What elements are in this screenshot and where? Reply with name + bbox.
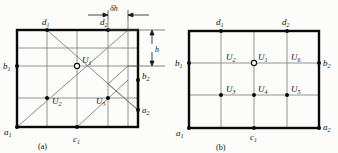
node-d1 [45, 28, 49, 32]
node-b1 [15, 64, 19, 68]
node-c1 [75, 125, 79, 129]
h-arrow-bottom-head [150, 61, 154, 66]
node-b2 [317, 61, 321, 65]
panel-b-caption: (b) [216, 143, 226, 152]
panel-a-label-d2: d2 [100, 17, 108, 28]
panel-a-grid-vertical [47, 30, 128, 127]
panel-a-label-c1: c1 [73, 134, 80, 145]
node-a2 [317, 126, 321, 130]
panel-b-label-b2: b2 [323, 58, 331, 69]
node-d2 [285, 29, 289, 33]
node-a1 [187, 126, 191, 130]
panel-b-label-b1: b1 [175, 58, 183, 69]
diagonal-a1-d2 [17, 30, 128, 127]
label-h: h [155, 45, 159, 54]
panel-a-dimension-lines [108, 20, 165, 66]
diagonal-u5-up [108, 66, 128, 84]
panel-b-label-u6: U6 [291, 52, 301, 63]
node-u5 [106, 96, 110, 100]
panel-a-label-b2: b2 [142, 71, 150, 82]
node-u3 [219, 93, 223, 97]
node-c1 [252, 126, 256, 130]
panel-b-label-u3: U3 [226, 84, 236, 95]
panel-b-grid-vertical [221, 31, 287, 128]
panel-a-caption: (a) [38, 142, 47, 151]
panel-b-label-a2: a2 [323, 122, 331, 133]
panel-b-label-u5: U5 [291, 84, 301, 95]
panel-a-nodes [15, 28, 140, 129]
dh-arrow-right-head [128, 13, 133, 17]
dimension-delta-h [88, 10, 149, 20]
panel-b-label-c1: c1 [250, 132, 257, 143]
panel-b-label-u2: U2 [226, 52, 236, 63]
figure-svg: δh h d1 d2 b1 b2 a1 a2 c1 U1 U2 U5 (a) [0, 0, 338, 153]
node-u2 [45, 96, 49, 100]
node-b1 [187, 61, 191, 65]
panel-a-frame [17, 30, 138, 127]
panel-b-label-d2: d2 [282, 17, 290, 28]
h-arrow-top-head [150, 30, 154, 35]
panel-a-label-a2: a2 [142, 105, 150, 116]
panel-b-label-u1: U1 [258, 52, 268, 63]
node-a2 [136, 108, 140, 112]
dimension-h [150, 30, 154, 66]
panel-a-label-d1: d1 [42, 17, 50, 28]
node-u1 [251, 60, 256, 65]
node-b2 [136, 78, 140, 82]
panel-a-diagonals [17, 30, 138, 127]
diagonal-lower-right [108, 84, 138, 110]
panel-a: δh h d1 d2 b1 b2 a1 a2 c1 U1 U2 U5 (a) [3, 4, 165, 151]
label-delta-h: δh [110, 4, 118, 13]
node-u1 [74, 63, 79, 68]
panel-b-label-u4: U4 [258, 84, 268, 95]
node-u4 [252, 93, 256, 97]
panel-b-label-d1: d1 [216, 17, 224, 28]
panel-a-label-b1: b1 [3, 61, 11, 72]
panel-b-label-a1: a1 [176, 128, 184, 139]
node-d1 [219, 29, 223, 33]
figure-container: δh h d1 d2 b1 b2 a1 a2 c1 U1 U2 U5 (a) [0, 0, 338, 153]
panel-a-label-u1: U1 [82, 55, 92, 66]
panel-b: d1 d2 b1 b2 a1 a2 c1 U1 U2 U3 U4 U5 U6 (… [175, 17, 331, 152]
panel-a-label-a1: a1 [4, 127, 12, 138]
node-a1 [15, 125, 19, 129]
node-u5 [285, 93, 289, 97]
